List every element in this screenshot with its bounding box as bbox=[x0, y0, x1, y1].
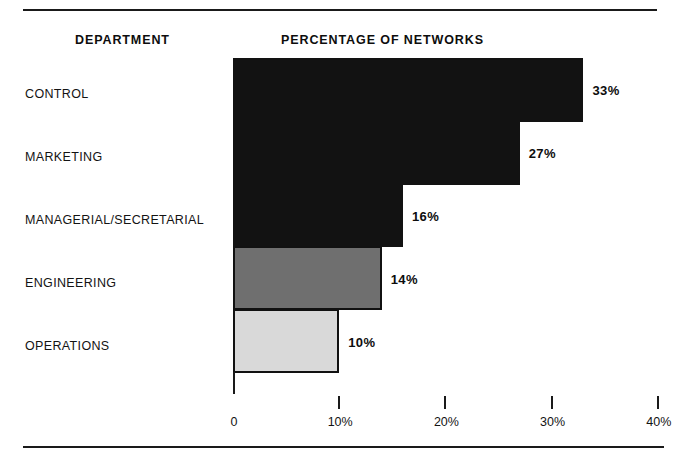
x-axis-tick-label: 10% bbox=[328, 415, 353, 429]
bar-operations bbox=[233, 309, 339, 373]
category-label-operations: OPERATIONS bbox=[25, 339, 110, 353]
bar-engineering bbox=[233, 246, 382, 310]
x-axis-tick-label: 0 bbox=[231, 415, 238, 429]
x-axis-tick-label: 20% bbox=[434, 415, 459, 429]
category-label-marketing: MARKETING bbox=[25, 150, 102, 164]
chart-figure: DEPARTMENT PERCENTAGE OF NETWORKS 33%27%… bbox=[0, 0, 679, 459]
bar-value-label: 10% bbox=[348, 334, 375, 349]
x-axis-tick bbox=[657, 396, 659, 409]
bar-value-label: 27% bbox=[529, 146, 556, 161]
x-axis-tick bbox=[551, 396, 553, 409]
category-label-control: CONTROL bbox=[25, 87, 89, 101]
x-axis-tick-label: 40% bbox=[646, 415, 671, 429]
bar-marketing bbox=[233, 121, 520, 185]
x-axis-tick-label: 30% bbox=[540, 415, 565, 429]
bar-value-label: 16% bbox=[412, 209, 439, 224]
x-axis-tick bbox=[444, 396, 446, 409]
category-label-engineering: ENGINEERING bbox=[25, 276, 116, 290]
x-axis-tick bbox=[338, 396, 340, 409]
bar-value-label: 14% bbox=[391, 271, 418, 286]
bar-value-label: 33% bbox=[592, 83, 619, 98]
plot-area: 33%27%16%14%10% 010%20%30%40% bbox=[0, 0, 679, 459]
y-axis-spine bbox=[233, 372, 235, 394]
category-label-managerial-secretarial: MANAGERIAL/SECRETARIAL bbox=[25, 213, 204, 227]
bar-control bbox=[233, 58, 583, 122]
bar-managerial-secretarial bbox=[233, 184, 403, 248]
